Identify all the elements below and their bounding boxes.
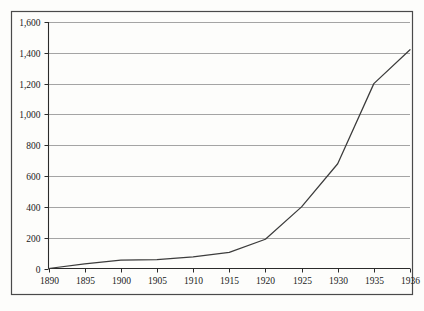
- y-tick-label: 1,600: [19, 18, 41, 28]
- y-tick-label: 600: [26, 172, 41, 182]
- line-chart: 02004006008001,0001,2001,4001,600 189018…: [0, 0, 424, 311]
- chart-figure: 02004006008001,0001,2001,4001,600 189018…: [0, 0, 424, 311]
- gridline-group: [49, 23, 411, 239]
- x-tick-label-group: 1890189519001905191019151920192519301935…: [40, 276, 420, 286]
- y-tick-label-group: 02004006008001,0001,2001,4001,600: [19, 18, 41, 275]
- x-tick-label: 1920: [256, 276, 275, 286]
- x-tick-label: 1915: [220, 276, 239, 286]
- y-tick-label: 1,200: [19, 80, 41, 90]
- x-tick-label: 1925: [293, 276, 312, 286]
- y-tick-label: 200: [26, 234, 41, 244]
- x-tick-label: 1890: [40, 276, 59, 286]
- y-tick-group: [45, 23, 49, 270]
- y-tick-label: 1,400: [19, 49, 41, 59]
- y-tick-label: 0: [36, 265, 41, 275]
- y-tick-label: 400: [26, 203, 41, 213]
- x-tick-label: 1905: [148, 276, 167, 286]
- x-tick-label: 1930: [329, 276, 348, 286]
- y-tick-label: 1,000: [19, 110, 41, 120]
- x-tick-group: [50, 269, 411, 273]
- x-tick-label: 1936: [401, 276, 420, 286]
- x-tick-label: 1935: [365, 276, 384, 286]
- x-tick-label: 1895: [76, 276, 95, 286]
- x-tick-label: 1910: [184, 276, 203, 286]
- data-series-line: [49, 50, 411, 269]
- y-tick-label: 800: [26, 141, 41, 151]
- x-tick-label: 1900: [112, 276, 131, 286]
